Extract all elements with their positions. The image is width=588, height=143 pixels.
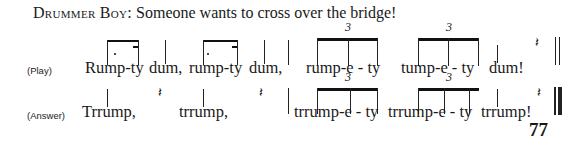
final-barline-icon (554, 87, 556, 115)
double-barline-icon (555, 37, 556, 65)
double-barline-icon (559, 37, 560, 65)
beam (203, 40, 238, 42)
page-number: 77 (529, 119, 548, 141)
triplet-mark: 3 (446, 70, 452, 85)
quarter-rest-icon: 𝄽 (158, 86, 162, 99)
word: trrump-e - ty (388, 102, 472, 122)
dotted-note-dot (114, 53, 116, 55)
word: rump-e - ty (306, 58, 380, 78)
word: Rump-ty (85, 58, 144, 78)
beam (107, 40, 139, 42)
quarter-rest-icon: 𝄽 (535, 36, 539, 49)
exercise-title: Drummer Boy: Someone wants to cross over… (33, 4, 396, 22)
beam (317, 88, 378, 91)
barline (288, 40, 289, 65)
dotted-note-dot (207, 53, 209, 55)
word: dum, (249, 58, 282, 78)
word: trrump, (179, 102, 228, 122)
line-label: (Answer) (27, 110, 65, 121)
final-barline-icon (558, 87, 562, 115)
speaker-name: Drummer Boy: (33, 4, 132, 21)
word: rump-ty (189, 58, 242, 78)
quarter-rest-icon: 𝄽 (259, 86, 263, 99)
word: Trrump, (82, 102, 136, 122)
word: tump-e - ty (401, 58, 474, 78)
triplet-mark: 3 (446, 20, 452, 35)
word: dum, (149, 58, 182, 78)
exercise-instruction: Someone wants to cross over the bridge! (136, 4, 396, 21)
word: dum! (489, 58, 524, 78)
barline (288, 88, 289, 114)
triplet-mark: 3 (345, 20, 351, 35)
quarter-rest-icon: 𝄽 (537, 86, 541, 99)
line-label: (Play) (27, 65, 52, 76)
word: trrump-e - ty (294, 102, 378, 122)
word: trrump! (481, 102, 531, 122)
triplet-mark: 3 (345, 70, 351, 85)
note-stem (478, 38, 479, 66)
